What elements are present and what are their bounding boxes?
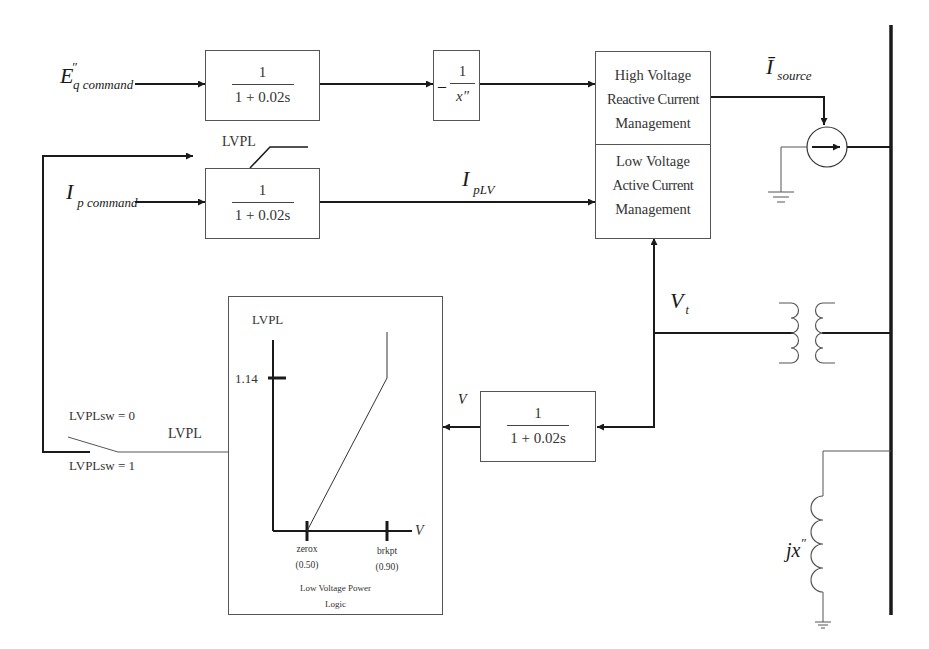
zerox-value: (0.50) [289,561,325,571]
reactance-bus-wire [823,451,891,496]
lvpl-limit-symbol [250,147,308,168]
ip-subscript: p command [77,195,137,210]
lv-active-current-management-block: Low Voltage Active Current Management [595,144,711,239]
hv-line-2: Reactive Current [596,87,710,111]
vt-label: Vt [670,290,687,312]
lv-line-1: Low Voltage [596,149,710,173]
current-source-ground-wire [781,147,807,192]
ip-filter-limit-label: LVPL [222,135,256,149]
neg-inv-x-sign: – [438,78,446,94]
eq-filter-denominator: 1 + 0.02s [206,85,319,106]
vt-to-filter-wire [597,333,654,427]
iplv-main: I [462,166,469,191]
v-signal-label: V [458,393,467,407]
eq-superscript: ″ [71,59,76,74]
zerox-label: zerox [291,545,323,555]
ip-filter-block: 1 1 + 0.02s [205,168,320,239]
isource-subscript: source [777,68,811,83]
brkpt-value: (0.90) [369,563,405,573]
v-filter-denominator: 1 + 0.02s [481,426,595,447]
lvpl-switch-blade [68,437,118,452]
lvplsw-0-label: LVPLsw = 0 [69,409,135,422]
vt-main: V [670,288,683,313]
lvpl-y-tick-label: 1.14 [235,372,258,385]
reactance-superscript: ″ [800,535,805,550]
reactance-main: jx [786,539,800,561]
isource-label: Īsource [766,56,808,78]
v-filter-block: 1 1 + 0.02s [480,391,596,462]
neg-inv-x-denominator: x″ [450,84,475,105]
ip-main: I [66,179,73,204]
neg-inv-x-numerator: 1 [450,63,475,83]
iplv-subscript: pLV [473,182,494,197]
hv-line-1: High Voltage [596,63,710,87]
brkpt-label: brkpt [371,547,403,557]
lvpl-caption-line-2: Logic [228,600,443,609]
ip-filter-numerator: 1 [206,182,319,202]
hv-reactive-current-management-block: High Voltage Reactive Current Management [595,51,711,145]
eq-command-label: E″q command [60,65,139,87]
ground-icon [815,622,831,628]
low-voltage-power-logic-block [228,296,443,615]
reactance-label: jx″ [786,540,806,560]
lvpl-switch-output-label: LVPL [168,427,202,441]
ip-command-label: Ip command [66,181,134,203]
inductor-icon [811,496,823,592]
eq-filter-numerator: 1 [206,64,319,84]
lvpl-caption-line-1: Low Voltage Power [228,584,443,593]
lvplsw-1-label: LVPLsw = 1 [69,459,135,472]
iplv-label: IpLV [462,168,491,190]
ip-filter-denominator: 1 + 0.02s [206,203,319,224]
isource-main: Ī [766,54,773,79]
hv-line-3: Management [596,111,710,135]
v-filter-numerator: 1 [481,405,595,425]
lvpl-y-axis-label: LVPL [252,313,283,326]
lv-line-2: Active Current [596,173,710,197]
neg-inv-x-block: – 1 x″ [433,50,480,121]
eq-filter-block: 1 1 + 0.02s [205,50,320,121]
vt-subscript: t [685,303,688,317]
isource-wire [710,97,824,125]
ground-icon [768,192,794,202]
eq-subscript: q command [73,77,133,92]
lv-line-3: Management [596,197,710,221]
lvpl-x-axis-label: V [415,524,424,538]
